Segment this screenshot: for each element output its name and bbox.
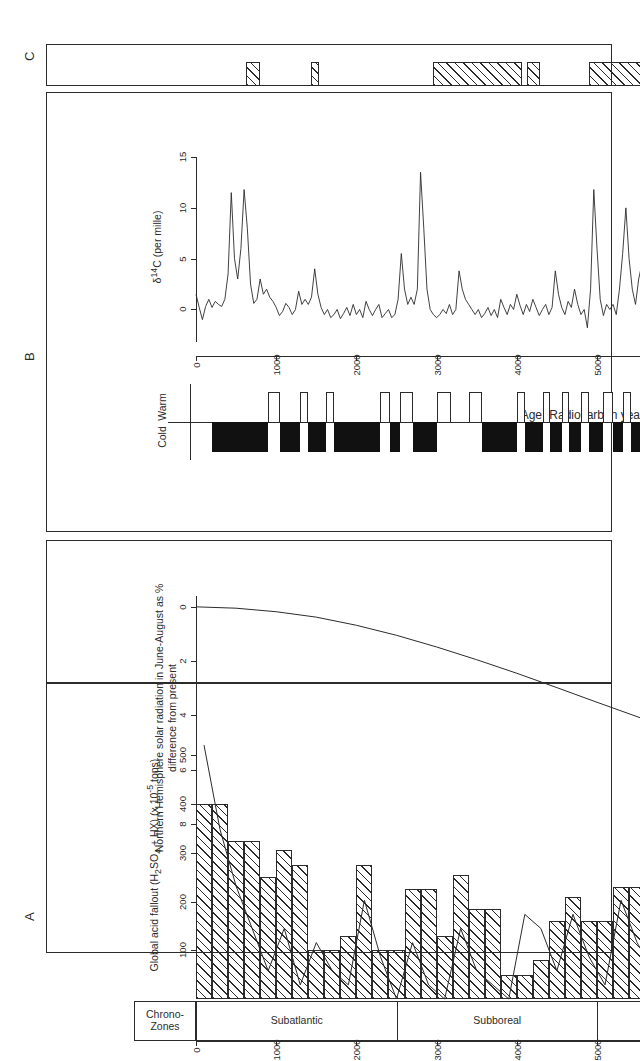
- cold-episode-bar: [308, 422, 326, 452]
- cold-episode-bar: [613, 422, 623, 452]
- warm-episode-bar: [623, 392, 631, 422]
- cold-episode-bar: [569, 422, 581, 452]
- warm-episode-bar: [469, 392, 482, 422]
- data-series: [204, 745, 640, 999]
- cold-episode-bar: [550, 422, 561, 452]
- d14c-axis-tick: [191, 309, 196, 310]
- cold-episode-bar: [482, 422, 517, 452]
- cold-episode-bar: [390, 422, 400, 452]
- acid-axis-tick: [191, 755, 196, 756]
- d14c-axis-tick: [191, 259, 196, 260]
- cold-episode-bar: [280, 422, 300, 452]
- axis-baseline: [196, 356, 640, 357]
- cold-episode-bar: [212, 422, 268, 452]
- axis-tick-label: 5000: [592, 1039, 603, 1060]
- warm-episode-bar: [581, 392, 589, 422]
- acid-fallout-axis-title: Global acid fallout (H2SO4 + HX) (x 10-5…: [145, 759, 163, 972]
- axis-tick-label: 1000: [271, 354, 282, 375]
- acid-axis-tick: [191, 853, 196, 854]
- d14c-axis-tick-label: 0: [177, 307, 188, 312]
- axis-tick-label: 2000: [351, 1039, 362, 1060]
- chrono-zone-subboreal: Subboreal: [397, 1001, 598, 1041]
- d14c-axis-tick: [191, 208, 196, 209]
- d14c-axis-tick-label: 5: [177, 256, 188, 261]
- d14c-curve: [46, 92, 640, 412]
- axis-tick-label: 5000: [592, 354, 603, 375]
- acid-axis-tick: [191, 950, 196, 951]
- d14c-axis-tick-label: 15: [177, 152, 188, 163]
- axis-tick-label: 0: [191, 1047, 202, 1052]
- cold-episode-bar: [525, 422, 543, 452]
- event-block: [527, 62, 540, 86]
- panel-label-c: C: [22, 52, 37, 61]
- axis-baseline: [196, 1041, 640, 1042]
- cold-episode-bar: [334, 422, 381, 452]
- acid-axis-tick-label: 400: [177, 796, 188, 812]
- d14c-axis-tick-label: 10: [177, 203, 188, 214]
- acid-axis-tick-label: 100: [177, 942, 188, 958]
- warm-cold-vertical-axis: [190, 384, 191, 460]
- warm-episode-bar: [517, 392, 525, 422]
- axis-tick: [196, 1041, 197, 1046]
- cold-episode-bar: [413, 422, 437, 452]
- event-block: [433, 62, 522, 86]
- panel-label-b: B: [22, 352, 37, 361]
- warm-label: Warm: [156, 393, 168, 421]
- cold-label: Cold: [156, 426, 168, 448]
- axis-tick-label: 2000: [351, 354, 362, 375]
- axis-tick-label: 1000: [271, 1039, 282, 1060]
- cold-episode-bar: [589, 422, 603, 452]
- warm-episode-bar: [268, 392, 280, 422]
- data-series: [196, 169, 640, 328]
- chrono-zone-atlantic: Atlantic: [597, 1001, 640, 1041]
- event-block: [311, 62, 320, 86]
- axis-tick: [196, 356, 197, 361]
- axis-tick-label: 4000: [511, 354, 522, 375]
- warm-episode-bar: [437, 392, 451, 422]
- acid-axis-tick-label: 200: [177, 894, 188, 910]
- acid-axis-line: [196, 731, 197, 999]
- d14c-axis-line: [196, 157, 197, 342]
- warm-episode-bar: [380, 392, 390, 422]
- d14c-axis-title: δ14C (per mille): [149, 211, 164, 284]
- warm-episode-bar: [562, 392, 569, 422]
- chrono-zone-subatlantic: Subatlantic: [196, 1001, 397, 1041]
- warm-episode-bar: [326, 392, 334, 422]
- warm-episode-bar: [603, 392, 613, 422]
- warm-episode-bar: [543, 392, 550, 422]
- figure-root: C B A /* -------------------------------…: [0, 0, 640, 1061]
- panel-a-solar: [46, 540, 612, 683]
- acid-axis-tick: [191, 902, 196, 903]
- acid-axis-tick: [191, 804, 196, 805]
- axis-tick-label: 4000: [511, 1039, 522, 1060]
- warm-episode-bar: [300, 392, 308, 422]
- panel-label-a: A: [22, 912, 37, 921]
- axis-tick-label: 0: [191, 362, 202, 367]
- event-block: [589, 62, 640, 86]
- event-block: [246, 62, 260, 86]
- cold-episode-bar: [631, 422, 640, 452]
- acid-axis-tick-label: 500: [177, 747, 188, 763]
- axis-tick-label: 3000: [431, 354, 442, 375]
- d14c-axis-tick: [191, 157, 196, 158]
- warm-episode-bar: [400, 392, 413, 422]
- chrono-zones-header: Chrono- Zones: [134, 1001, 196, 1041]
- acid-axis-tick-label: 300: [177, 845, 188, 861]
- axis-tick-label: 3000: [431, 1039, 442, 1060]
